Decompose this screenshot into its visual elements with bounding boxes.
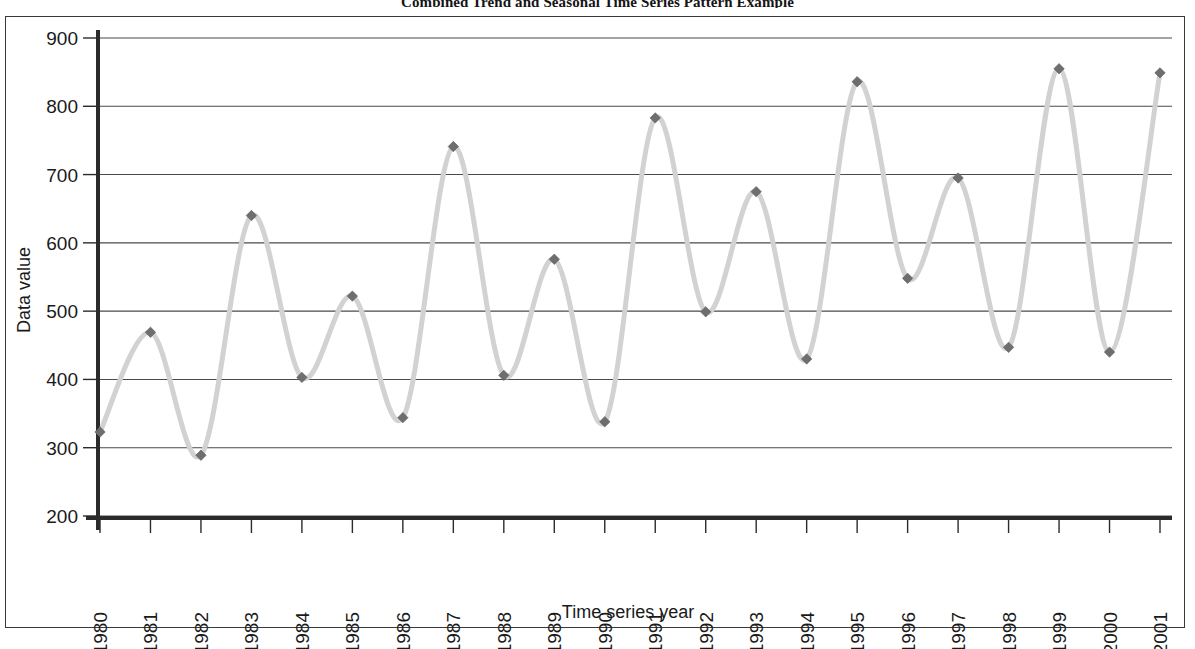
x-tick-label: 1980 — [90, 612, 111, 649]
x-tick-label: 1998 — [999, 612, 1020, 649]
x-tick-label: 1987 — [443, 612, 464, 649]
y-tick-label: 900 — [46, 28, 78, 49]
y-tick-label: 700 — [46, 165, 78, 186]
x-tick-label: 1986 — [393, 612, 414, 649]
x-tick-label: 1996 — [898, 612, 919, 649]
x-tick-label: 1985 — [342, 612, 363, 649]
gridlines — [96, 38, 1172, 516]
x-tick-label: 1995 — [847, 612, 868, 649]
x-tick-label: 1988 — [494, 612, 515, 649]
x-tick-label: 1982 — [191, 612, 212, 649]
x-tick-label: 2001 — [1150, 612, 1171, 649]
y-tick-label: 800 — [46, 96, 78, 117]
y-tick-label: 600 — [46, 233, 78, 254]
y-tick-label: 500 — [46, 301, 78, 322]
y-tick-labels: 900800700600500400300200 — [46, 28, 78, 527]
x-tick-label: 1999 — [1049, 612, 1070, 649]
x-tick-label: 1984 — [292, 612, 313, 649]
x-axis-ticks — [100, 518, 1160, 533]
x-tick-label: 1993 — [746, 612, 767, 649]
x-tick-label: 1983 — [241, 612, 262, 649]
x-tick-label: 1997 — [948, 612, 969, 649]
x-tick-label: 2000 — [1100, 612, 1121, 649]
y-tick-label: 200 — [46, 506, 78, 527]
series-line — [100, 69, 1160, 457]
y-tick-label: 400 — [46, 369, 78, 390]
y-axis-title: Data value — [14, 247, 34, 333]
y-tick-label: 300 — [46, 438, 78, 459]
chart-plot-area: 900800700600500400300200 198019811982198… — [0, 0, 1195, 649]
x-tick-label: 1992 — [696, 612, 717, 649]
data-series — [95, 64, 1165, 461]
data-point-marker — [1155, 68, 1165, 78]
x-tick-label: 1994 — [797, 612, 818, 649]
x-axis-title: Time series year — [562, 602, 694, 622]
x-tick-label: 1981 — [140, 612, 161, 649]
